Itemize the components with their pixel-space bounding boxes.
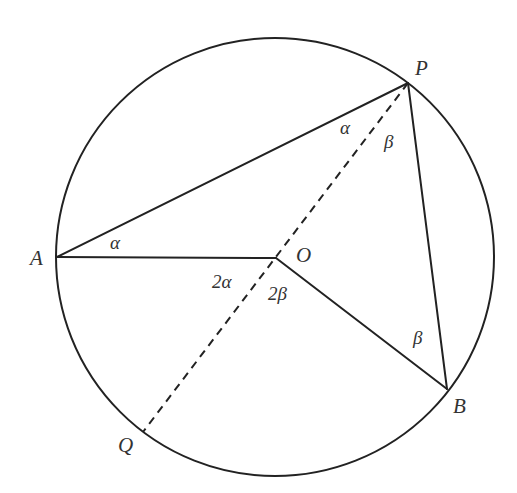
angle-label-OPB-beta: β [383,131,394,152]
angle-label-OBP-beta: β [412,327,423,348]
inscribed-angle-diagram: A P O B Q α α β 2α 2β β [0,0,517,493]
angle-label-OAP-alpha: α [110,232,121,253]
angle-label-AOQ-2alpha: 2α [212,271,233,292]
point-label-P: P [414,56,428,80]
angle-label-APO-alpha: α [340,117,351,138]
point-label-Q: Q [118,433,133,457]
segment-AO [57,257,276,258]
point-label-B: B [453,394,466,418]
segment-OB [276,258,447,389]
segment-AP [57,83,408,257]
angle-label-QOB-2beta: 2β [268,283,288,304]
point-label-A: A [28,246,43,270]
point-label-O: O [296,243,311,267]
